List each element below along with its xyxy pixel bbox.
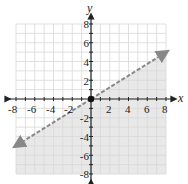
svg-text:2: 2 bbox=[106, 103, 112, 115]
svg-text:2: 2 bbox=[84, 75, 90, 87]
svg-text:-8: -8 bbox=[8, 103, 18, 115]
inequality-graph: x y -8 -6 -4 -2 2 4 6 8 8 6 4 2 -2 -4 -6… bbox=[0, 0, 188, 184]
origin-point bbox=[88, 96, 94, 102]
svg-text:4: 4 bbox=[84, 56, 90, 68]
svg-text:6: 6 bbox=[84, 37, 90, 49]
svg-text:6: 6 bbox=[144, 103, 150, 115]
svg-text:-4: -4 bbox=[80, 131, 90, 143]
svg-text:8: 8 bbox=[84, 18, 90, 30]
svg-text:-6: -6 bbox=[80, 150, 90, 162]
svg-text:-2: -2 bbox=[80, 112, 89, 124]
svg-text:4: 4 bbox=[125, 103, 131, 115]
svg-text:8: 8 bbox=[162, 103, 168, 115]
svg-text:-2: -2 bbox=[64, 103, 73, 115]
x-axis-label: x bbox=[177, 91, 184, 105]
svg-text:-6: -6 bbox=[27, 103, 37, 115]
y-axis-label: y bbox=[86, 1, 93, 15]
svg-text:-4: -4 bbox=[46, 103, 56, 115]
svg-text:-8: -8 bbox=[80, 168, 90, 180]
